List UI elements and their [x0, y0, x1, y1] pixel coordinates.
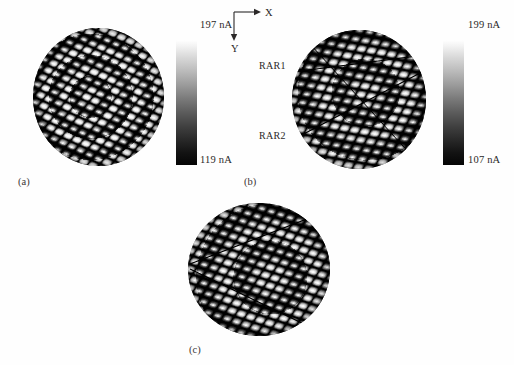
stm-image-panel-a [33, 28, 164, 166]
colorbar-a [176, 40, 197, 165]
colorbar-a-min-label: 119 nA [200, 155, 232, 166]
stm-figure: (a) 197 nA 119 nA X Y RAR1 RAR2 (b) 199 … [0, 0, 514, 365]
colorbar-b-max-label: 199 nA [468, 20, 500, 31]
atomic-lattice-b [292, 30, 426, 169]
rar2-label: RAR2 [259, 131, 286, 141]
axis-label-y: Y [231, 44, 239, 55]
axis-label-x: X [265, 8, 273, 19]
stm-image-panel-c [188, 203, 330, 336]
rar1-label: RAR1 [259, 61, 286, 71]
atomic-lattice-c [188, 203, 330, 336]
panel-caption-c: (c) [189, 345, 201, 356]
colorbar-b-min-label: 107 nA [468, 155, 500, 166]
colorbar-b [443, 40, 464, 165]
y-axis-arrowhead [231, 34, 237, 41]
axes-indicator [228, 8, 268, 46]
panel-caption-a: (a) [18, 177, 30, 188]
atomic-lattice-a [33, 28, 164, 166]
stm-image-panel-b [292, 30, 426, 169]
panel-caption-b: (b) [244, 177, 256, 188]
x-axis-arrowhead [254, 9, 261, 15]
